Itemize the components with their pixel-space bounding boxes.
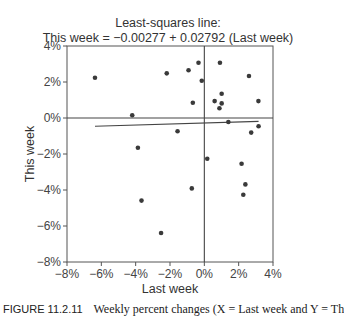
y-tick-label: −6% [37, 219, 62, 233]
data-points [93, 60, 261, 235]
data-point [243, 182, 248, 187]
least-squares-line [95, 121, 259, 126]
data-point [212, 99, 217, 104]
caption-text: Weekly percent changes (X = Last week an… [93, 302, 344, 316]
x-axis-label: Last week [142, 282, 199, 296]
data-point [139, 198, 144, 203]
data-point [205, 156, 210, 161]
data-point [256, 124, 261, 129]
data-point [186, 68, 191, 73]
y-tick-label: 0% [44, 111, 62, 125]
data-point [256, 99, 261, 104]
regression-line [95, 121, 259, 126]
chart-title: Least-squares line: [115, 16, 221, 30]
plot-frame [67, 46, 273, 262]
x-tick-label: 0% [196, 267, 214, 281]
x-tick-label: 4% [264, 267, 282, 281]
y-tick-label: −2% [37, 147, 62, 161]
x-axis-ticks: −8%−6%−4%−2%0%2%4% [55, 262, 282, 281]
data-point [199, 78, 204, 83]
zero-reference-lines [67, 46, 273, 262]
y-tick-label: 4% [44, 39, 62, 53]
x-tick-label: −4% [123, 267, 148, 281]
figure-caption: FIGURE 11.2.11 Weekly percent changes (X… [3, 302, 303, 317]
y-tick-label: −8% [37, 255, 62, 269]
data-point [159, 231, 164, 236]
data-point [164, 71, 169, 76]
y-tick-label: 2% [44, 75, 62, 89]
y-axis-ticks: 4%2%0%−2%−4%−6%−8% [37, 39, 67, 269]
data-point [93, 75, 98, 80]
chart-subtitle: This week = −0.00277 + 0.02792 (Last wee… [43, 31, 294, 45]
data-point [175, 129, 180, 134]
data-point [226, 120, 231, 125]
data-point [219, 91, 224, 96]
data-point [219, 101, 224, 106]
x-tick-label: −6% [89, 267, 114, 281]
x-tick-label: −8% [55, 267, 80, 281]
data-point [190, 186, 195, 191]
y-axis-label: This week [23, 125, 37, 182]
x-tick-label: −2% [158, 267, 183, 281]
scatter-chart: Least-squares line: This week = −0.00277… [0, 0, 297, 300]
data-point [196, 60, 201, 65]
data-point [130, 113, 135, 118]
data-point [249, 130, 254, 135]
figure-number: FIGURE 11.2.11 [3, 303, 83, 315]
data-point [217, 106, 222, 111]
data-point [136, 145, 141, 150]
data-point [241, 192, 246, 197]
data-point [247, 74, 252, 79]
data-point [239, 161, 244, 166]
y-tick-label: −4% [37, 183, 62, 197]
x-tick-label: 2% [230, 267, 248, 281]
data-point [218, 60, 223, 65]
data-point [191, 100, 196, 105]
